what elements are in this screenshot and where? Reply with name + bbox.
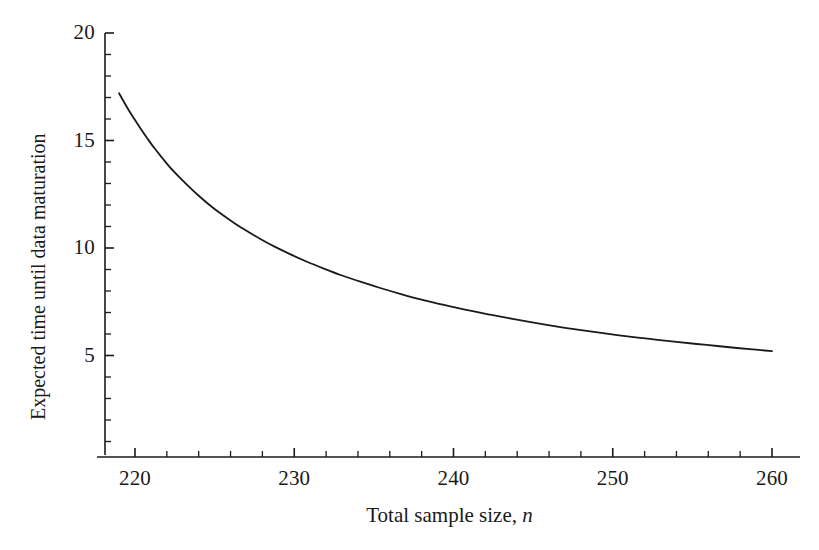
y-tick-label: 15 xyxy=(74,130,95,151)
x-tick-label: 250 xyxy=(573,468,653,489)
y-tick-label: 20 xyxy=(74,22,95,43)
x-tick-label: 240 xyxy=(414,468,494,489)
y-axis-label: Expected time until data maturation xyxy=(28,133,48,420)
x-axis-label: Total sample size, n xyxy=(0,505,819,526)
x-tick-label: 220 xyxy=(95,468,175,489)
figure-chart-expected-time-vs-sample-size: 2015105 220230240250260 Expected time un… xyxy=(0,0,819,550)
x-tick-label: 230 xyxy=(254,468,334,489)
y-tick-label: 5 xyxy=(84,345,95,366)
data-series-line xyxy=(119,93,772,351)
x-axis-label-text: Total sample size, xyxy=(366,503,522,527)
axes-group xyxy=(97,33,800,457)
x-axis-label-variable: n xyxy=(522,503,533,527)
y-tick-label: 10 xyxy=(74,237,95,258)
x-tick-label: 260 xyxy=(732,468,812,489)
ticks-group xyxy=(105,33,772,457)
